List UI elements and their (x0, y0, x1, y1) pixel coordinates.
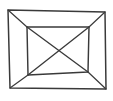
figure-canvas (0, 0, 113, 101)
geometric-figure-svg (0, 0, 113, 101)
